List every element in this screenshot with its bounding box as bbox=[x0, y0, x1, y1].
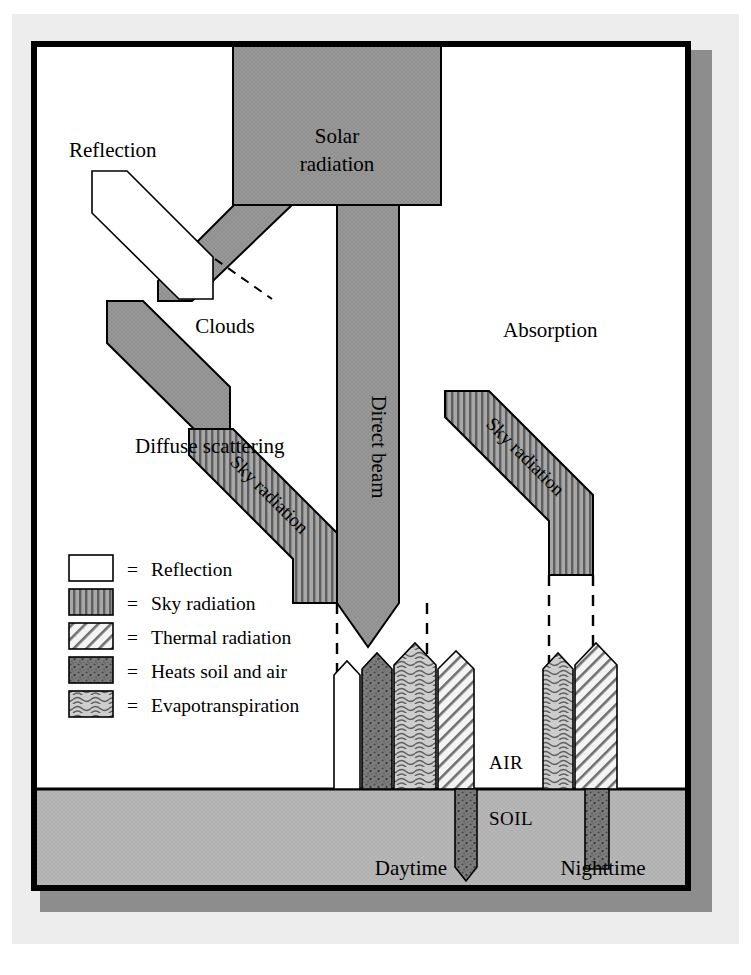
legend-label-evapotranspiration: Evapotranspiration bbox=[151, 695, 300, 716]
legend-label-thermal-radiation: Thermal radiation bbox=[151, 627, 291, 648]
nighttime-surface-arrows bbox=[543, 643, 617, 789]
label-nighttime: Nighttime bbox=[560, 856, 645, 880]
label-reflection: Reflection bbox=[69, 138, 157, 162]
legend-item-reflection: = Reflection bbox=[69, 555, 232, 581]
figure-plate: Solar radiation Reflection Clouds Absorp… bbox=[31, 41, 691, 891]
legend-swatch-sky-radiation bbox=[69, 589, 113, 615]
label-direct-beam: Direct beam bbox=[367, 395, 391, 498]
daytime-arrow-evapotranspiration bbox=[394, 643, 436, 789]
figure-page: Solar radiation Reflection Clouds Absorp… bbox=[0, 0, 751, 975]
label-clouds: Clouds bbox=[195, 314, 255, 338]
legend-equals-2: = bbox=[127, 627, 138, 648]
label-soil: SOIL bbox=[489, 808, 533, 829]
legend-swatch-thermal-radiation bbox=[69, 623, 113, 649]
label-solar-radiation-line2: radiation bbox=[300, 152, 375, 176]
legend-item-thermal-radiation: = Thermal radiation bbox=[69, 623, 291, 649]
legend-label-reflection: Reflection bbox=[151, 559, 232, 580]
label-absorption: Absorption bbox=[503, 318, 598, 342]
legend-label-heats-soil-and-air: Heats soil and air bbox=[151, 661, 287, 682]
label-diffuse-scattering: Diffuse scattering bbox=[135, 434, 285, 458]
daytime-arrow-thermal-radiation bbox=[438, 651, 474, 789]
legend-label-sky-radiation: Sky radiation bbox=[151, 593, 256, 614]
legend-swatch-heats-soil-and-air bbox=[69, 657, 113, 683]
legend-swatch-reflection bbox=[69, 555, 113, 581]
daytime-soil-arrow-heats-soil bbox=[455, 789, 477, 881]
legend-equals-1: = bbox=[127, 593, 138, 614]
nighttime-arrow-evapotranspiration bbox=[543, 653, 573, 789]
legend-swatch-evapotranspiration bbox=[69, 691, 113, 717]
daytime-arrow-reflection bbox=[334, 661, 360, 789]
nighttime-arrow-thermal-radiation bbox=[575, 643, 617, 789]
legend-equals-4: = bbox=[127, 695, 138, 716]
label-daytime: Daytime bbox=[375, 856, 447, 880]
legend-equals-3: = bbox=[127, 661, 138, 682]
legend-item-sky-radiation: = Sky radiation bbox=[69, 589, 256, 615]
daytime-arrow-heats-soil-and-air bbox=[362, 653, 392, 789]
legend-item-evapotranspiration: = Evapotranspiration bbox=[69, 691, 300, 717]
label-air: AIR bbox=[489, 752, 523, 773]
legend-equals-0: = bbox=[127, 559, 138, 580]
energy-balance-diagram: Solar radiation Reflection Clouds Absorp… bbox=[37, 47, 685, 885]
label-solar-radiation-line1: Solar bbox=[315, 124, 359, 148]
legend-item-heats-soil-and-air: = Heats soil and air bbox=[69, 657, 287, 683]
